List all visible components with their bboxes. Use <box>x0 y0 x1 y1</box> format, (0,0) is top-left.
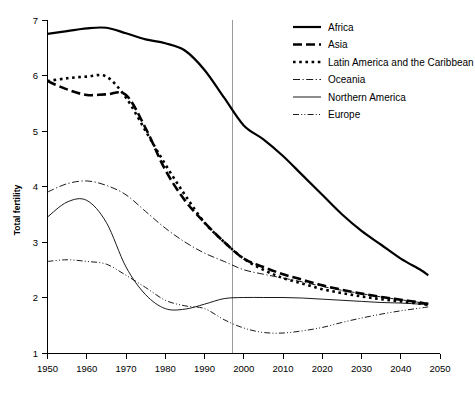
x-tick-label: 1980 <box>155 363 176 374</box>
x-tick-label: 2040 <box>390 363 411 374</box>
legend-label-northern-america: Northern America <box>328 92 406 103</box>
y-tick-label: 6 <box>33 70 38 81</box>
series-line-latin-america-and-the-caribbean <box>48 75 429 305</box>
chart-canvas: 1234567 19501960197019801990200020102020… <box>0 0 475 402</box>
y-tick-label: 2 <box>33 292 38 303</box>
x-tick-label: 1960 <box>76 363 97 374</box>
series-line-oceania <box>48 181 429 303</box>
x-tick-label: 2050 <box>429 363 450 374</box>
series-group <box>48 27 429 333</box>
x-tick-label: 2020 <box>312 363 333 374</box>
y-tick-label: 3 <box>33 237 38 248</box>
x-tick-label: 1990 <box>194 363 215 374</box>
x-tick-label: 2010 <box>272 363 293 374</box>
x-tick-label: 1950 <box>37 363 58 374</box>
x-tick-label: 2000 <box>233 363 254 374</box>
x-tick-label: 2030 <box>351 363 372 374</box>
y-tick-label: 1 <box>33 348 38 359</box>
y-tick-label: 4 <box>33 181 38 192</box>
y-tick-group: 1234567 <box>33 15 48 359</box>
legend: AfricaAsiaLatin America and the Caribbea… <box>293 22 474 121</box>
legend-label-europe: Europe <box>328 109 361 120</box>
y-axis-title: Total fertility <box>12 185 22 236</box>
axis-group <box>48 20 441 354</box>
fertility-chart: 1234567 19501960197019801990200020102020… <box>0 0 475 402</box>
y-tick-label: 5 <box>33 126 38 137</box>
x-tick-label: 1970 <box>115 363 136 374</box>
series-line-asia <box>48 81 429 304</box>
y-tick-label: 7 <box>33 15 38 26</box>
x-tick-group: 1950196019701980199020002010202020302040… <box>37 354 451 375</box>
legend-label-latin-america-and-the-caribbean: Latin America and the Caribbean <box>328 57 474 68</box>
legend-label-asia: Asia <box>328 39 348 50</box>
legend-label-oceania: Oceania <box>328 74 366 85</box>
legend-label-africa: Africa <box>328 22 354 33</box>
